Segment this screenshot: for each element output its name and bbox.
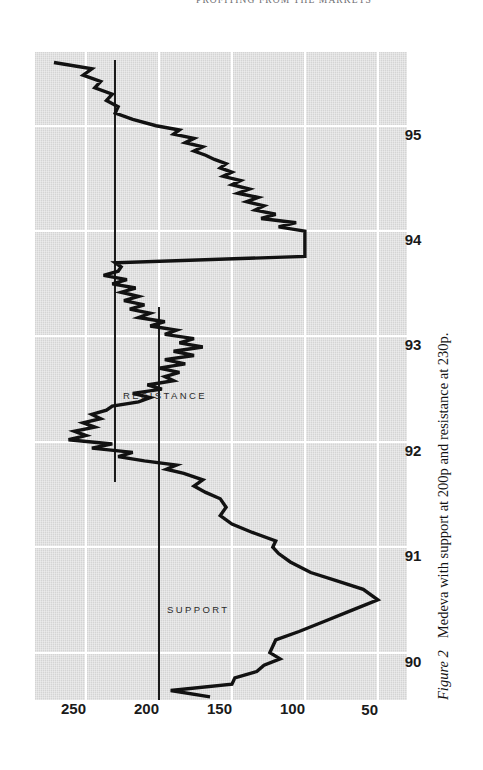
y-tick-150: 150 xyxy=(206,701,231,718)
plot-area: SUPPORTRESISTANCE xyxy=(35,52,407,700)
x-tick-92: 92 xyxy=(404,442,421,459)
figure-caption-text: Medeva with support at 200p and resistan… xyxy=(435,333,451,639)
y-tick-100: 100 xyxy=(279,701,304,718)
x-tick-95: 95 xyxy=(404,126,421,143)
figure-caption: Figure 2Medeva with support at 200p and … xyxy=(435,52,452,700)
x-tick-94: 94 xyxy=(404,231,421,248)
rotated-figure-stage: SUPPORTRESISTANCE 909192939495 501001502… xyxy=(27,25,457,745)
x-tick-93: 93 xyxy=(404,337,421,354)
y-tick-50: 50 xyxy=(361,701,378,718)
y-tick-250: 250 xyxy=(61,701,86,718)
figure-caption-label: Figure 2 xyxy=(435,650,451,700)
price-chart: SUPPORTRESISTANCE 909192939495 501001502… xyxy=(27,25,457,745)
price-series-line xyxy=(53,63,377,697)
y-tick-200: 200 xyxy=(133,701,158,718)
x-tick-91: 91 xyxy=(404,547,421,564)
figure-2: SUPPORTRESISTANCE 909192939495 501001502… xyxy=(0,0,483,770)
price-series-svg xyxy=(35,52,407,700)
x-tick-90: 90 xyxy=(404,653,421,670)
